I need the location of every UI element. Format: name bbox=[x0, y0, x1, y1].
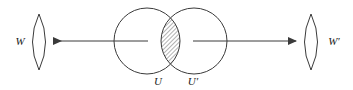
lens-shape-w bbox=[33, 14, 46, 70]
label-w-prime: W′ bbox=[328, 35, 340, 47]
right-lens-group: W′ bbox=[305, 14, 341, 70]
venn-group: U U′ bbox=[114, 8, 227, 87]
lens-shape-w-prime bbox=[305, 14, 318, 70]
left-lens-group: W bbox=[15, 14, 45, 70]
label-w: W bbox=[15, 35, 25, 47]
label-u: U bbox=[154, 75, 163, 87]
diagram-canvas: W U U′ W′ bbox=[0, 0, 353, 90]
label-u-prime: U′ bbox=[188, 75, 199, 87]
